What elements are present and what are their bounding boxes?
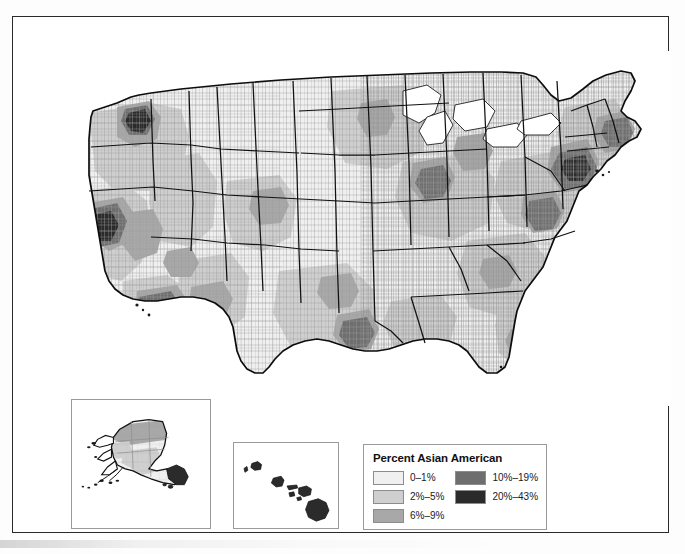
alaska-inset-box — [71, 399, 211, 529]
legend-item-2-5: 2%–5% — [373, 489, 444, 504]
legend-item-6-9: 6%–9% — [373, 508, 444, 523]
map-legend: Percent Asian American 0–1% 2%–5% 6%–9% — [363, 444, 547, 530]
figure-canvas: Percent Asian American 0–1% 2%–5% 6%–9% — [0, 0, 685, 554]
legend-item-10-19: 10%–19% — [455, 470, 538, 485]
main-map-svg — [31, 51, 671, 406]
main-map-contiguous-us — [31, 51, 671, 406]
legend-item-0-1: 0–1% — [373, 470, 444, 485]
legend-label-0-1: 0–1% — [410, 472, 436, 483]
legend-swatch-6-9 — [373, 509, 404, 523]
legend-swatch-2-5 — [373, 490, 404, 504]
legend-label-6-9: 6%–9% — [410, 510, 444, 521]
legend-label-2-5: 2%–5% — [410, 491, 444, 502]
figure-frame: Percent Asian American 0–1% 2%–5% 6%–9% — [12, 16, 669, 533]
legend-item-20-43: 20%–43% — [455, 489, 538, 504]
alaska-inset-svg — [72, 400, 210, 528]
legend-columns: 0–1% 2%–5% 6%–9% 10%–19% — [373, 470, 537, 523]
legend-column-2: 10%–19% 20%–43% — [455, 470, 538, 523]
legend-title: Percent Asian American — [373, 452, 537, 464]
page-shadow — [0, 540, 685, 548]
legend-swatch-20-43 — [455, 490, 486, 504]
legend-label-20-43: 20%–43% — [492, 491, 538, 502]
hawaii-inset-svg — [234, 443, 338, 528]
hawaii-inset-box — [233, 442, 339, 529]
legend-swatch-0-1 — [373, 471, 404, 485]
legend-swatch-10-19 — [455, 471, 486, 485]
legend-column-1: 0–1% 2%–5% 6%–9% — [373, 470, 444, 523]
legend-label-10-19: 10%–19% — [492, 472, 538, 483]
